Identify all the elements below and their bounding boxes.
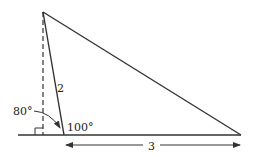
right-angle-marker xyxy=(35,128,43,135)
exterior-angle-arrow xyxy=(34,111,60,128)
label-angle-exterior: 80° xyxy=(13,105,33,118)
label-side-left: 2 xyxy=(57,82,64,95)
side-left xyxy=(43,12,64,135)
side-hypotenuse xyxy=(43,12,241,135)
label-angle-interior: 100° xyxy=(67,121,94,134)
triangle-diagram: 2 3 80° 100° xyxy=(0,0,253,157)
label-side-base: 3 xyxy=(148,140,155,153)
